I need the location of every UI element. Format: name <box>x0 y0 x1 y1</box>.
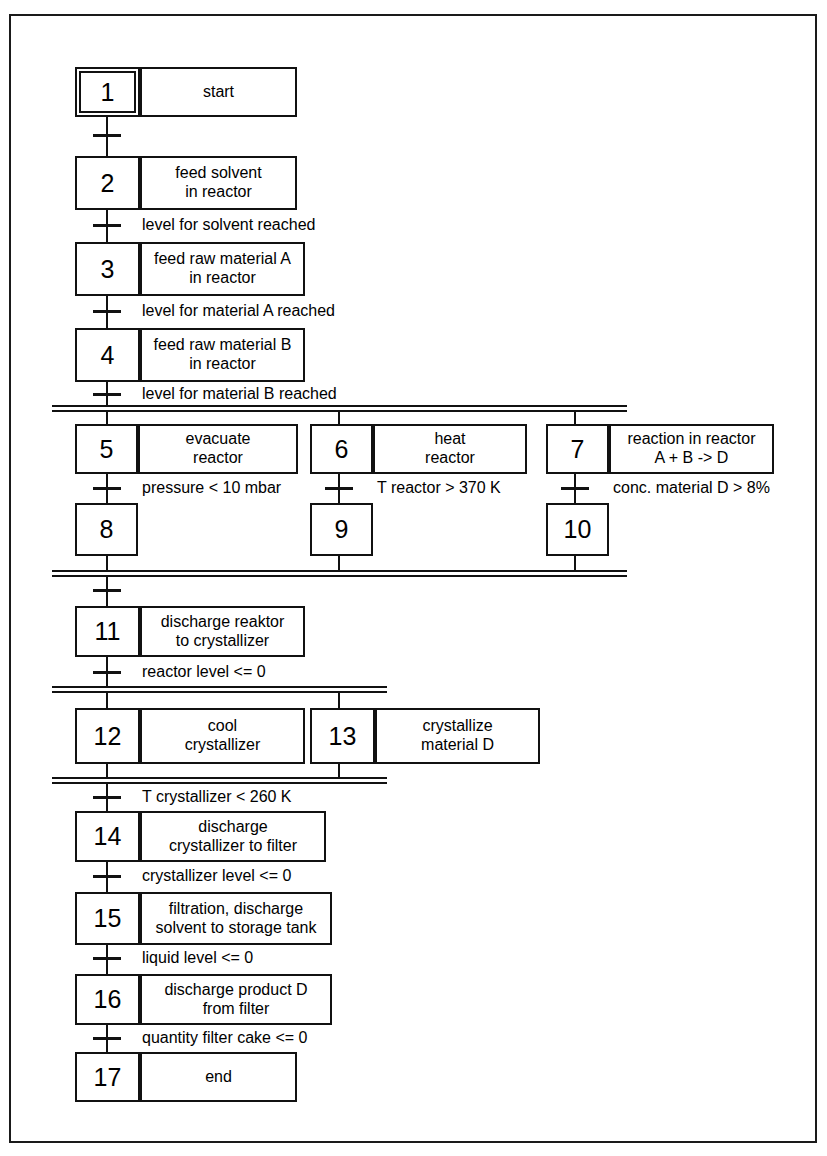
parallel-convergence-1 <box>52 570 627 577</box>
diagram-frame: 1 start 2 feed solvent in reactor level … <box>9 14 817 1143</box>
action-line: to crystallizer <box>176 632 269 651</box>
action-box-5[interactable]: evacuate reactor <box>138 424 298 474</box>
transition-bar-t2[interactable] <box>93 224 121 227</box>
action-line: from filter <box>203 1000 270 1019</box>
branch-rise-8 <box>106 556 108 571</box>
action-box-2[interactable]: feed solvent in reactor <box>140 156 297 210</box>
step-box-9[interactable]: 9 <box>310 503 373 556</box>
action-box-15[interactable]: filtration, discharge solvent to storage… <box>140 892 332 945</box>
step-box-15[interactable]: 15 <box>75 892 140 945</box>
action-line: crystallize <box>422 717 492 736</box>
transition-condition-t4: level for material B reached <box>142 386 337 402</box>
action-line: crystallizer <box>185 736 261 755</box>
action-line: in reactor <box>189 269 256 288</box>
action-line: discharge reaktor <box>161 613 285 632</box>
transition-bar-t6[interactable] <box>325 487 353 490</box>
transition-condition-t7: conc. material D > 8% <box>613 480 770 496</box>
parallel-divergence-1 <box>52 405 627 412</box>
action-box-1[interactable]: start <box>140 67 297 117</box>
transition-condition-t13: quantity filter cake <= 0 <box>142 1030 307 1046</box>
action-box-11[interactable]: discharge reaktor to crystallizer <box>140 606 305 657</box>
transition-bar-t13[interactable] <box>93 1037 121 1040</box>
step-box-7[interactable]: 7 <box>546 424 609 474</box>
action-line: reactor <box>193 449 243 468</box>
transition-condition-t9: reactor level <= 0 <box>142 664 266 680</box>
transition-bar-t12[interactable] <box>93 957 121 960</box>
action-box-12[interactable]: cool crystallizer <box>140 708 305 764</box>
transition-condition-t3: level for material A reached <box>142 303 335 319</box>
parallel-convergence-2 <box>52 777 387 784</box>
action-line: heat <box>434 430 465 449</box>
step-box-4[interactable]: 4 <box>75 328 140 382</box>
transition-condition-t12: liquid level <= 0 <box>142 950 253 966</box>
step-box-6[interactable]: 6 <box>310 424 373 474</box>
branch-rise-9 <box>338 556 340 571</box>
step-box-16[interactable]: 16 <box>75 974 140 1025</box>
branch-drop-7 <box>574 412 576 424</box>
branch-drop-13 <box>338 693 340 708</box>
action-line: reaction in reactor <box>627 430 755 449</box>
action-line: crystallizer to filter <box>169 837 297 856</box>
action-line: in reactor <box>189 355 256 374</box>
transition-bar-t11[interactable] <box>93 875 121 878</box>
step-box-17[interactable]: 17 <box>75 1052 140 1102</box>
action-box-4[interactable]: feed raw material B in reactor <box>140 328 305 382</box>
step-box-12[interactable]: 12 <box>75 708 140 764</box>
action-line: A + B -> D <box>655 449 729 468</box>
transition-bar-t4[interactable] <box>93 393 121 396</box>
action-box-6[interactable]: heat reactor <box>373 424 527 474</box>
step-box-3[interactable]: 3 <box>75 242 140 296</box>
transition-condition-t2: level for solvent reached <box>142 217 315 233</box>
diagram-page: 1 start 2 feed solvent in reactor level … <box>0 0 827 1156</box>
action-line: discharge product D <box>164 981 307 1000</box>
action-line: solvent to storage tank <box>156 919 317 938</box>
transition-bar-t3[interactable] <box>93 310 121 313</box>
transition-bar-t5[interactable] <box>93 487 121 490</box>
step-box-14[interactable]: 14 <box>75 811 140 862</box>
transition-bar-t9[interactable] <box>93 671 121 674</box>
step-box-10[interactable]: 10 <box>546 503 609 556</box>
action-box-16[interactable]: discharge product D from filter <box>140 974 332 1025</box>
action-line: feed solvent <box>175 164 261 183</box>
action-line: end <box>205 1068 232 1087</box>
transition-bar-t8[interactable] <box>93 589 121 592</box>
step-box-5[interactable]: 5 <box>75 424 138 474</box>
action-box-17[interactable]: end <box>140 1052 297 1102</box>
branch-drop-6 <box>338 412 340 424</box>
parallel-divergence-2 <box>52 686 387 693</box>
action-line: filtration, discharge <box>169 900 303 919</box>
action-line: reactor <box>425 449 475 468</box>
action-box-14[interactable]: discharge crystallizer to filter <box>140 811 326 862</box>
action-line: in reactor <box>185 183 252 202</box>
branch-rise-10 <box>574 556 576 571</box>
transition-bar-t10[interactable] <box>93 796 121 799</box>
branch-drop-5 <box>106 412 108 424</box>
branch-rise-12 <box>106 764 108 778</box>
action-line: material D <box>421 736 494 755</box>
action-line: feed raw material A <box>154 250 291 269</box>
transition-condition-t11: crystallizer level <= 0 <box>142 868 291 884</box>
transition-condition-t10: T crystallizer < 260 K <box>142 789 292 805</box>
action-box-3[interactable]: feed raw material A in reactor <box>140 242 305 296</box>
action-line: discharge <box>198 818 267 837</box>
branch-drop-12 <box>106 693 108 708</box>
transition-bar-t1[interactable] <box>93 134 121 137</box>
action-line: feed raw material B <box>154 336 292 355</box>
step-box-2[interactable]: 2 <box>75 156 140 210</box>
transition-bar-t7[interactable] <box>561 487 589 490</box>
transition-condition-t5: pressure < 10 mbar <box>142 480 281 496</box>
transition-condition-t6: T reactor > 370 K <box>377 480 501 496</box>
step-box-13[interactable]: 13 <box>310 708 375 764</box>
branch-rise-13 <box>338 764 340 778</box>
step-box-11[interactable]: 11 <box>75 606 140 657</box>
step-box-8[interactable]: 8 <box>75 503 138 556</box>
step-box-1[interactable]: 1 <box>75 67 140 117</box>
action-box-7[interactable]: reaction in reactor A + B -> D <box>609 424 774 474</box>
action-box-13[interactable]: crystallize material D <box>375 708 540 764</box>
action-line: cool <box>208 717 237 736</box>
action-line: start <box>203 83 234 102</box>
action-line: evacuate <box>186 430 251 449</box>
